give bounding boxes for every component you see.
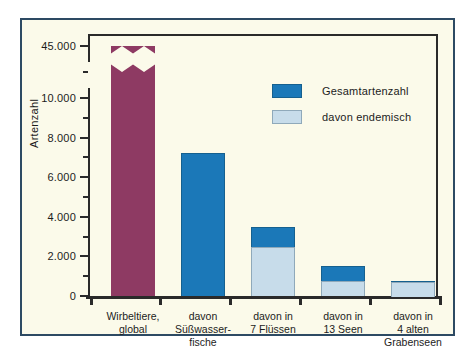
y-axis-major-tick (80, 137, 88, 139)
y-axis-tick-label: 0 (22, 290, 76, 302)
bar-4 (391, 281, 435, 296)
legend-item: davon endemisch (272, 110, 411, 124)
legend-label: davon endemisch (322, 111, 411, 123)
y-axis-major-tick (80, 176, 88, 178)
x-axis-tick (299, 296, 302, 305)
bar-slot (170, 20, 236, 296)
y-axis-major-tick (80, 45, 88, 47)
y-axis-tick-label: 45.000 (22, 40, 76, 52)
bar-slot (380, 20, 446, 296)
bar-segment-gesamtartenzahl (181, 153, 225, 296)
chart-legend: Gesamtartenzahldavon endemisch (272, 84, 411, 136)
y-axis-major-tick (80, 255, 88, 257)
y-axis-major-tick (80, 295, 88, 297)
bar-segment-davon-endemisch (251, 247, 295, 297)
legend-swatch-total (272, 84, 302, 98)
y-axis-break-marker (87, 62, 93, 88)
figure-frame: Artenzahl 02.0004.0006.0008.00010.00045.… (20, 18, 455, 336)
bar-slot (100, 20, 166, 296)
y-axis-minor-tick (83, 196, 88, 198)
y-axis-minor-tick (83, 71, 88, 73)
x-axis-tick (229, 296, 232, 305)
bar-wirbeltiere-global-lower (111, 72, 155, 296)
bar-3 (321, 266, 365, 296)
bar-segment-davon-endemisch (391, 282, 435, 297)
legend-item: Gesamtartenzahl (272, 84, 411, 98)
y-axis-tick-label: 8.000 (22, 132, 76, 144)
x-axis-tick (90, 296, 93, 305)
bar-slot (240, 20, 306, 296)
y-axis-tick-label: 2.000 (22, 250, 76, 262)
y-axis-major-tick (80, 216, 88, 218)
bar-segment-gesamtartenzahl (251, 227, 295, 247)
x-axis-tick (439, 296, 442, 305)
bar-segment-gesamtartenzahl (321, 266, 365, 281)
bar-2 (251, 227, 295, 296)
x-axis-line (86, 296, 440, 299)
bar-segment-davon-endemisch (321, 281, 365, 296)
legend-swatch-endemic (272, 110, 302, 124)
y-axis-minor-tick (83, 117, 88, 119)
x-axis-category-label: davon in 4 alten Grabenseen (365, 310, 461, 349)
x-axis-tick (159, 296, 162, 305)
bar-slot (310, 20, 376, 296)
axis-break-zigzag-lower (111, 59, 155, 72)
bar-segment-global (111, 72, 155, 296)
y-axis-minor-tick (83, 156, 88, 158)
y-axis-tick-label: 4.000 (22, 211, 76, 223)
x-axis-tick (369, 296, 372, 305)
y-axis-minor-tick (83, 236, 88, 238)
bar-1 (181, 153, 225, 296)
y-axis-tick-label: 10.000 (22, 92, 76, 104)
y-axis-tick-label: 6.000 (22, 171, 76, 183)
y-axis-major-tick (80, 97, 88, 99)
y-axis-minor-tick (83, 275, 88, 277)
axis-break-zigzag-upper (111, 46, 155, 59)
legend-label: Gesamtartenzahl (322, 85, 409, 97)
